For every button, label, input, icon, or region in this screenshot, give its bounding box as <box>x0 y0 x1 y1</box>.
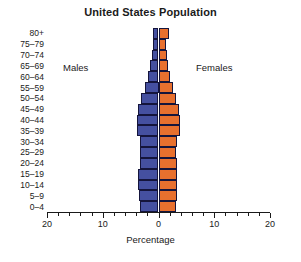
bar-male <box>139 190 159 201</box>
y-axis-tick-label: 80+ <box>2 28 44 38</box>
x-axis-minor-tick <box>237 213 238 216</box>
pyramid-row <box>47 82 270 93</box>
y-axis-labels: 0–45–910–1415–1920–2425–2930–3435–3940–4… <box>0 28 44 212</box>
x-axis-tick-label: 10 <box>197 219 231 229</box>
bar-male <box>137 115 159 126</box>
bar-male <box>138 180 158 191</box>
y-axis-tick-label: 75–79 <box>2 39 44 49</box>
y-axis-tick-label: 50–54 <box>2 93 44 103</box>
bar-male <box>145 82 159 93</box>
pyramid-row <box>47 169 270 180</box>
pyramid-row <box>47 147 270 158</box>
bar-female <box>159 115 181 126</box>
bar-female <box>159 82 173 93</box>
y-axis-tick-label: 60–64 <box>2 72 44 82</box>
x-axis-minor-tick <box>170 213 171 216</box>
y-axis-tick-label: 20–24 <box>2 158 44 168</box>
bar-male <box>148 71 159 82</box>
bar-male <box>140 201 159 212</box>
x-axis-tick-label: 20 <box>30 219 64 229</box>
x-axis-major-tick <box>214 213 215 218</box>
pyramid-row <box>47 28 270 39</box>
y-axis-tick-label: 65–69 <box>2 61 44 71</box>
x-axis-title: Percentage <box>0 234 301 245</box>
y-axis-tick-label: 0–4 <box>2 202 44 212</box>
bar-male <box>140 147 158 158</box>
y-axis-tick-label: 70–74 <box>2 50 44 60</box>
x-axis-minor-tick <box>80 213 81 216</box>
bar-female <box>159 190 177 201</box>
pyramid-row <box>47 201 270 212</box>
x-axis-minor-tick <box>225 213 226 216</box>
x-axis-minor-tick <box>181 213 182 216</box>
x-axis-minor-tick <box>259 213 260 216</box>
y-axis-tick-label: 45–49 <box>2 104 44 114</box>
bar-male <box>152 50 159 61</box>
x-axis-minor-tick <box>69 213 70 216</box>
x-axis-minor-tick <box>92 213 93 216</box>
bar-male <box>137 125 159 136</box>
pyramid-row <box>47 93 270 104</box>
bar-male <box>141 93 158 104</box>
annotation-females: Females <box>196 62 232 73</box>
x-axis-major-tick <box>103 213 104 218</box>
x-axis-tick-label: 20 <box>253 219 287 229</box>
bar-female <box>159 201 177 212</box>
bar-female <box>159 104 179 115</box>
x-axis-major-tick <box>47 213 48 218</box>
bar-female <box>159 169 178 180</box>
y-axis-tick-label: 30–34 <box>2 137 44 147</box>
bar-female <box>159 158 177 169</box>
pyramid-row <box>47 136 270 147</box>
plot-area <box>47 28 270 212</box>
y-axis-tick-label: 5–9 <box>2 191 44 201</box>
x-axis-minor-tick <box>136 213 137 216</box>
bar-male <box>138 169 158 180</box>
x-axis-minor-tick <box>203 213 204 216</box>
bar-female <box>159 125 180 136</box>
bar-female <box>159 147 177 158</box>
annotation-males: Males <box>63 62 88 73</box>
y-axis-tick-label: 55–59 <box>2 83 44 93</box>
x-axis-tick-label: 10 <box>86 219 120 229</box>
bar-female <box>159 93 177 104</box>
bar-female <box>159 39 166 50</box>
y-axis-tick-label: 35–39 <box>2 126 44 136</box>
x-axis-minor-tick <box>125 213 126 216</box>
x-axis-minor-tick <box>192 213 193 216</box>
bar-female <box>159 60 168 71</box>
pyramid-row <box>47 50 270 61</box>
y-axis-tick-label: 10–14 <box>2 180 44 190</box>
pyramid-row <box>47 190 270 201</box>
pyramid-row <box>47 158 270 169</box>
y-axis-tick-label: 40–44 <box>2 115 44 125</box>
x-axis-major-tick <box>159 213 160 218</box>
y-axis-tick-label: 15–19 <box>2 169 44 179</box>
bar-male <box>140 136 159 147</box>
x-axis-tick-label: 0 <box>142 219 176 229</box>
bar-female <box>159 180 178 191</box>
x-axis-minor-tick <box>58 213 59 216</box>
bar-female <box>159 28 169 39</box>
pyramid-row <box>47 125 270 136</box>
x-axis-minor-tick <box>248 213 249 216</box>
population-pyramid-chart: United States Population 0–45–910–1415–1… <box>0 0 301 262</box>
y-axis-tick-label: 25–29 <box>2 147 44 157</box>
pyramid-row <box>47 115 270 126</box>
pyramid-row <box>47 39 270 50</box>
pyramid-row <box>47 180 270 191</box>
bar-male <box>138 104 158 115</box>
bar-female <box>159 50 167 61</box>
bar-female <box>159 136 177 147</box>
x-axis-major-tick <box>270 213 271 218</box>
bar-male <box>150 60 158 71</box>
pyramid-row <box>47 104 270 115</box>
bar-male <box>140 158 159 169</box>
x-axis-minor-tick <box>147 213 148 216</box>
bar-female <box>159 71 171 82</box>
chart-title: United States Population <box>0 6 301 18</box>
x-axis-minor-tick <box>114 213 115 216</box>
